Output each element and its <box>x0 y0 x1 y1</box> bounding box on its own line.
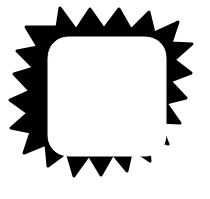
icon-canvas: Spiky Sunburst Rounded Square Badge <box>0 0 210 199</box>
inner-rounded-square-hole <box>48 37 166 156</box>
spiky-badge-icon <box>0 0 210 199</box>
